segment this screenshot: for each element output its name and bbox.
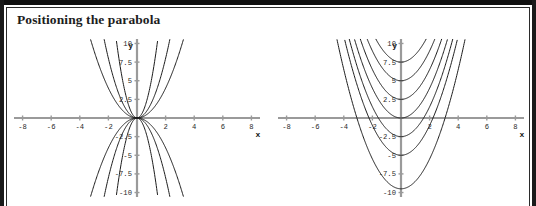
x-tick-label: -4 (339, 123, 348, 131)
y-tick-label: 7.5 (119, 59, 132, 67)
x-axis-label: x (520, 130, 525, 139)
y-tick-label: -10 (119, 189, 132, 197)
x-tick-label: 6 (221, 123, 225, 131)
right-plot: -8-6-4-22468107.552.5-2.5-5-7.5-10xy (272, 33, 530, 203)
y-tick-label: -5 (387, 152, 396, 160)
x-tick-label: -4 (75, 123, 84, 131)
y-tick-label: 5 (128, 77, 132, 85)
frame-top-rule (0, 0, 536, 5)
x-tick-label: 4 (192, 123, 196, 131)
x-tick-label: 2 (163, 123, 167, 131)
y-tick-label: -5 (123, 152, 132, 160)
x-tick-label: -2 (104, 123, 113, 131)
left-plot-canvas: -8-6-4-22468107.552.5-2.5-5-7.5-10xy (8, 33, 266, 203)
x-tick-label: -8 (18, 123, 27, 131)
y-tick-label: -7.5 (115, 170, 132, 178)
x-tick-label: -6 (311, 123, 320, 131)
y-tick-label: -2.5 (115, 133, 132, 141)
frame-left-rule (0, 0, 4, 206)
frame-right-rule (532, 0, 536, 206)
y-axis-label: y (392, 41, 397, 50)
y-axis-label: y (128, 41, 133, 50)
x-tick-label: 2 (427, 123, 431, 131)
frame-inner-top-rule (6, 7, 530, 8)
y-tick-label: -10 (383, 189, 396, 197)
x-tick-label: -2 (368, 123, 377, 131)
page-title: Positioning the parabola (17, 12, 160, 28)
left-plot: -8-6-4-22468107.552.5-2.5-5-7.5-10xy (8, 33, 266, 203)
x-tick-label: 8 (249, 123, 253, 131)
right-plot-canvas: -8-6-4-22468107.552.5-2.5-5-7.5-10xy (272, 33, 530, 203)
figure-root: Positioning the parabola -8-6-4-22468107… (0, 0, 536, 206)
x-axis-label: x (256, 130, 261, 139)
frame-inner-left-rule (6, 7, 7, 206)
x-tick-label: 4 (456, 123, 460, 131)
x-tick-label: -6 (47, 123, 56, 131)
x-tick-label: 6 (485, 123, 489, 131)
x-tick-label: 8 (513, 123, 517, 131)
x-tick-label: -8 (282, 123, 291, 131)
